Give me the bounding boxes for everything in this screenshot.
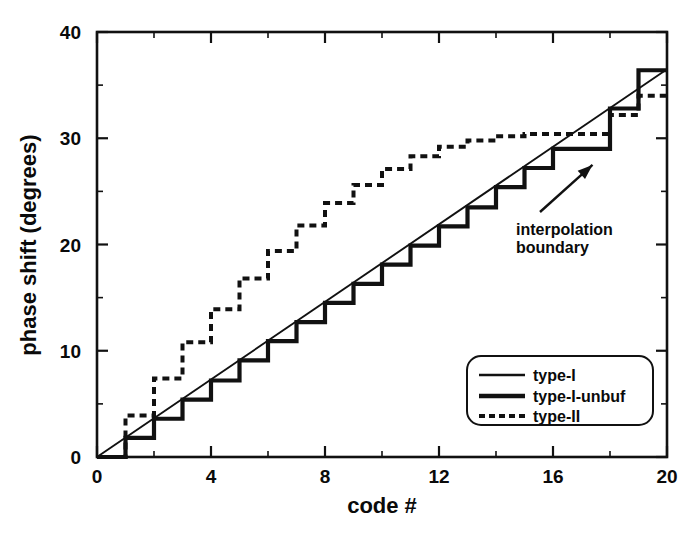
annotation-text-line-2: boundary [516,239,589,256]
y-tick-label: 10 [60,341,81,362]
y-tick-label: 0 [70,447,81,468]
x-tick-label: 12 [428,466,449,487]
y-tick-label: 40 [60,22,81,43]
legend-label-type-ii: type-II [533,408,580,425]
y-tick-label: 20 [60,235,81,256]
annotation-text-line-1: interpolation [516,221,613,238]
legend: type-I type-I-unbuf type-II [467,356,653,425]
x-tick-label: 20 [656,466,677,487]
x-axis-title: code # [347,493,417,518]
x-tick-label: 16 [542,466,563,487]
x-tick-label: 8 [320,466,331,487]
x-tick-label: 4 [206,466,217,487]
chart-background [0,0,697,535]
legend-label-type-i: type-I [533,367,576,384]
x-tick-label: 0 [92,466,103,487]
legend-label-type-i-unbuf: type-I-unbuf [533,388,626,405]
y-axis-title: phase shift (degrees) [16,134,41,355]
phase-shift-chart: 048121620010203040 code # phase shift (d… [0,0,697,535]
y-tick-label: 30 [60,128,81,149]
